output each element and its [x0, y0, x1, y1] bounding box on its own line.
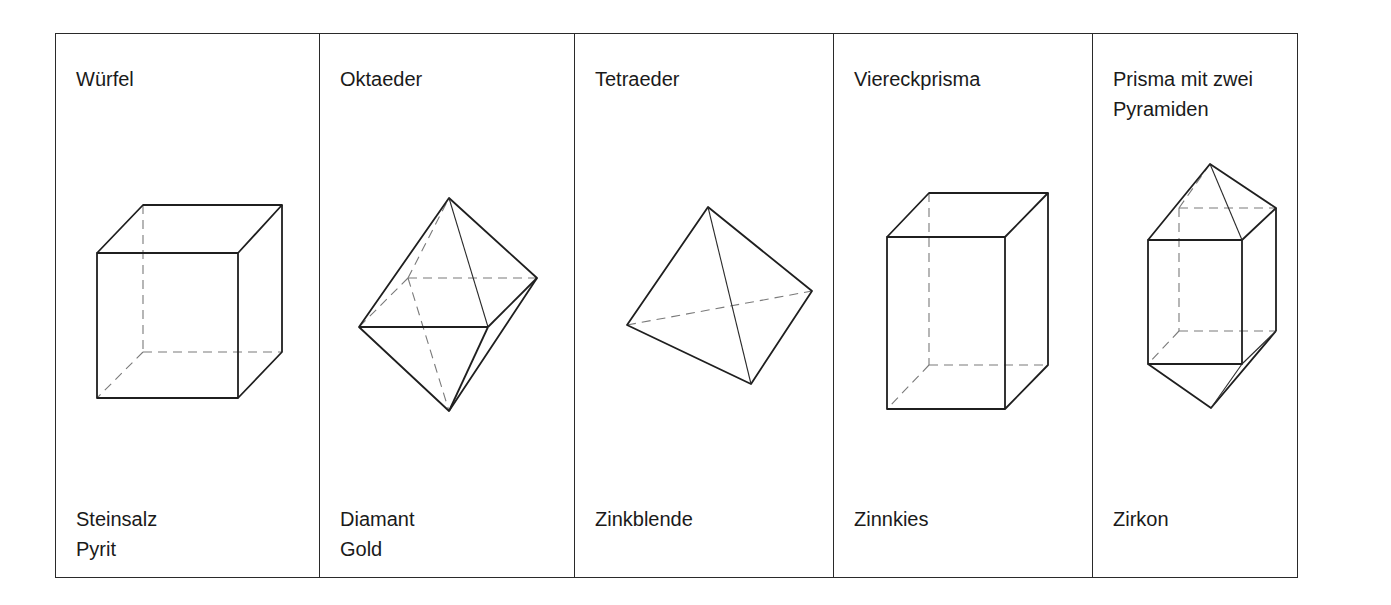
column-cube: Würfel Steinsalz Pyrit: [56, 34, 319, 577]
mineral-name: Pyrit: [76, 534, 157, 564]
cube-icon: [56, 34, 319, 579]
square-prism-icon: [834, 34, 1093, 579]
column-prism-two-pyramids: Prisma mit zwei Pyramiden Zirkon: [1092, 34, 1299, 577]
column-tetrahedron: Tetraeder Zinkblende: [574, 34, 833, 577]
mineral-name: Zinkblende: [595, 504, 693, 534]
mineral-list: Steinsalz Pyrit: [76, 504, 157, 564]
mineral-list: Zinkblende: [595, 504, 693, 534]
mineral-list: Zinnkies: [854, 504, 928, 534]
octahedron-icon: [320, 34, 575, 579]
mineral-name: Diamant: [340, 504, 414, 534]
mineral-list: Diamant Gold: [340, 504, 414, 564]
column-octahedron: Oktaeder Diamant Gold: [319, 34, 574, 577]
mineral-name: Zirkon: [1113, 504, 1169, 534]
mineral-name: Steinsalz: [76, 504, 157, 534]
tetrahedron-icon: [575, 34, 834, 579]
mineral-name: Gold: [340, 534, 414, 564]
crystal-forms-table: Würfel Steinsalz Pyrit Oktaeder: [55, 33, 1298, 578]
column-square-prism: Viereckprisma Zinnkies: [833, 34, 1092, 577]
bipyramidal-prism-icon: [1093, 34, 1300, 579]
mineral-name: Zinnkies: [854, 504, 928, 534]
mineral-list: Zirkon: [1113, 504, 1169, 534]
